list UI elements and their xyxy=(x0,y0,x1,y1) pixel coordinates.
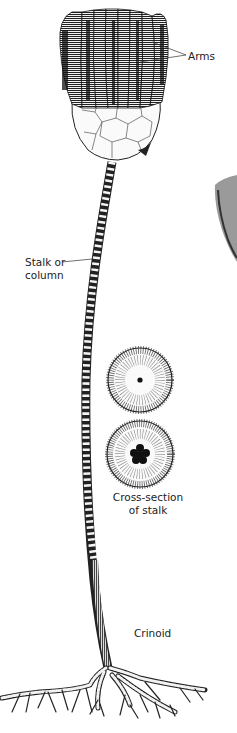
crown xyxy=(60,9,169,160)
stalk-column xyxy=(86,162,112,668)
label-cross-section-line1: Cross-section xyxy=(108,491,188,504)
label-cross-section: Cross-section of stalk xyxy=(108,491,188,517)
label-cross-section-line2: of stalk xyxy=(108,504,188,517)
holdfast-roots xyxy=(2,668,205,718)
cross-section-top xyxy=(108,348,172,412)
label-arms: Arms xyxy=(188,50,215,63)
crinoid-illustration xyxy=(0,0,237,733)
label-crinoid: Crinoid xyxy=(134,627,171,640)
label-stalk-line1: Stalk or xyxy=(25,256,85,269)
cross-section-bottom xyxy=(107,421,173,487)
label-stalk-line2: column xyxy=(25,269,85,282)
neighbor-specimen-fragment xyxy=(215,175,237,262)
label-stalk-or-column: Stalk or column xyxy=(25,256,85,282)
